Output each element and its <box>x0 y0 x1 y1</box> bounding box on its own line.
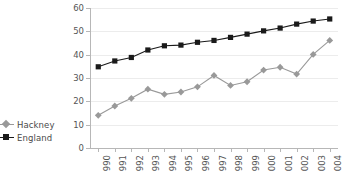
x-tick <box>131 148 132 152</box>
x-tick <box>115 148 116 152</box>
data-point-hackney-1996[interactable] <box>194 83 201 90</box>
x-tick-label: 1993 <box>151 155 161 171</box>
data-point-hackney-1991[interactable] <box>111 103 118 110</box>
data-point-england-2003[interactable] <box>311 18 316 23</box>
data-point-england-2004[interactable] <box>327 16 332 21</box>
x-tick <box>197 148 198 152</box>
legend-marker-england-icon <box>0 132 14 143</box>
data-point-hackney-1997[interactable] <box>211 72 218 79</box>
plot-area: 0102030405060 19901991199219931994199519… <box>90 8 338 148</box>
legend-label-england: England <box>14 133 52 143</box>
x-tick-label: 1998 <box>234 155 244 171</box>
x-tick <box>313 148 314 152</box>
y-tick-label: 10 <box>73 120 84 130</box>
data-point-england-1990[interactable] <box>96 64 101 69</box>
y-tick <box>86 148 90 149</box>
x-tick <box>231 148 232 152</box>
data-point-england-1998[interactable] <box>228 35 233 40</box>
data-point-hackney-1995[interactable] <box>178 89 185 96</box>
legend-item-england[interactable]: England <box>0 131 62 144</box>
x-tick <box>247 148 248 152</box>
data-point-hackney-2000[interactable] <box>260 67 267 74</box>
data-point-england-1993[interactable] <box>145 47 150 52</box>
x-tick-label: 1991 <box>118 155 128 171</box>
data-point-england-1992[interactable] <box>129 55 134 60</box>
y-tick-label: 40 <box>73 50 84 60</box>
x-tick-label: 1990 <box>102 155 112 171</box>
data-point-england-1995[interactable] <box>178 43 183 48</box>
legend-item-hackney[interactable]: Hackney <box>0 118 62 131</box>
x-tick-label: 2001 <box>284 155 294 171</box>
data-point-hackney-1999[interactable] <box>244 78 251 85</box>
data-point-england-1996[interactable] <box>195 40 200 45</box>
data-point-england-2002[interactable] <box>294 22 299 27</box>
data-point-hackney-1990[interactable] <box>95 112 102 119</box>
x-tick <box>214 148 215 152</box>
y-tick-label: 60 <box>73 3 84 13</box>
x-tick-label: 1994 <box>168 155 178 171</box>
y-tick-label: 20 <box>73 96 84 106</box>
data-point-england-1999[interactable] <box>244 32 249 37</box>
x-tick <box>148 148 149 152</box>
legend-label-hackney: Hackney <box>14 120 55 130</box>
data-point-hackney-1998[interactable] <box>227 82 234 89</box>
data-point-hackney-1993[interactable] <box>144 86 151 93</box>
x-tick <box>280 148 281 152</box>
square-marker-icon <box>3 134 9 140</box>
diamond-marker-icon <box>2 120 10 128</box>
chart-figure: Hackney England 0102030405060 1990199119… <box>0 0 343 171</box>
data-point-england-2001[interactable] <box>278 25 283 30</box>
x-tick-label: 1995 <box>184 155 194 171</box>
x-tick-label: 2000 <box>267 155 277 171</box>
x-tick <box>98 148 99 152</box>
x-tick <box>264 148 265 152</box>
x-tick-label: 2003 <box>317 155 327 171</box>
x-tick-label: 1997 <box>218 155 228 171</box>
x-tick <box>164 148 165 152</box>
y-tick-label: 50 <box>73 26 84 36</box>
data-point-hackney-1992[interactable] <box>128 95 135 102</box>
x-tick-label: 1992 <box>135 155 145 171</box>
y-tick-label: 0 <box>79 143 84 153</box>
y-tick-label: 30 <box>73 73 84 83</box>
data-point-england-1994[interactable] <box>162 43 167 48</box>
x-tick-label: 2004 <box>333 155 343 171</box>
series-layer <box>90 8 338 148</box>
data-point-hackney-1994[interactable] <box>161 91 168 98</box>
x-tick <box>181 148 182 152</box>
data-point-hackney-2001[interactable] <box>277 64 284 71</box>
x-tick <box>297 148 298 152</box>
x-tick-label: 1996 <box>201 155 211 171</box>
x-tick-label: 2002 <box>300 155 310 171</box>
data-point-england-1997[interactable] <box>211 38 216 43</box>
x-tick-label: 1999 <box>251 155 261 171</box>
data-point-england-1991[interactable] <box>112 58 117 63</box>
legend-marker-hackney-icon <box>0 119 14 130</box>
data-point-england-2000[interactable] <box>261 28 266 33</box>
x-tick <box>330 148 331 152</box>
chart-legend: Hackney England <box>0 118 62 146</box>
